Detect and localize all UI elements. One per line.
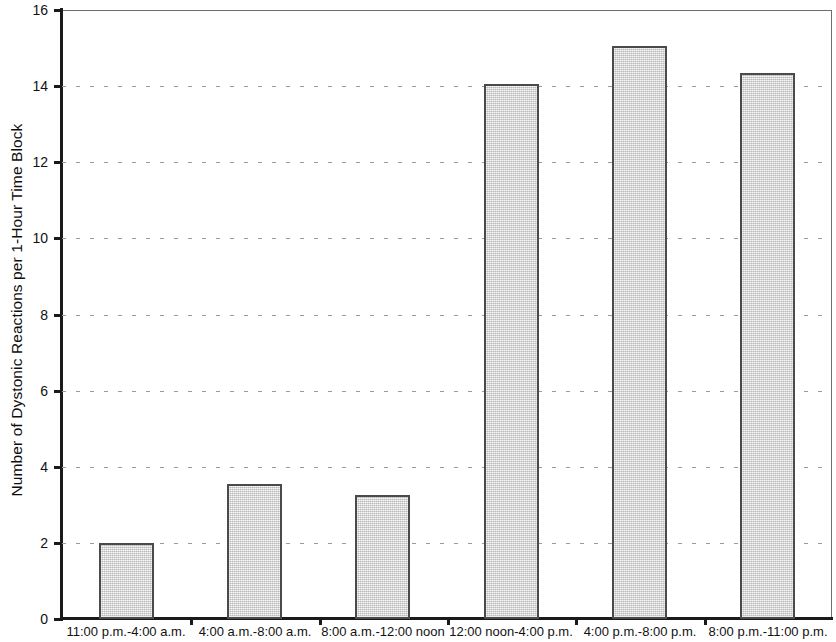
x-axis-tick-label: 4:00 p.m.-8:00 p.m. <box>584 624 697 639</box>
gridline <box>62 238 832 239</box>
bar <box>355 495 410 619</box>
y-axis-title: Number of Dystonic Reactions per 1-Hour … <box>0 0 34 620</box>
y-axis-tick-label: 12 <box>32 154 48 170</box>
gridline <box>62 315 832 316</box>
bar <box>740 73 795 619</box>
x-axis-tick-label: 12:00 noon-4:00 p.m. <box>449 624 573 639</box>
x-axis-tick-label: 4:00 a.m.-8:00 a.m. <box>199 624 312 639</box>
x-axis-tick-label: 8:00 p.m.-11:00 p.m. <box>709 624 828 639</box>
x-axis-tick-label: 8:00 a.m.-12:00 noon <box>321 624 445 639</box>
y-axis-tick <box>54 466 62 469</box>
gridline <box>62 467 832 468</box>
y-axis-tick-label: 6 <box>40 383 48 399</box>
y-axis-tick <box>54 237 62 240</box>
x-axis-tick <box>575 617 578 625</box>
y-axis-tick-label: 4 <box>40 459 48 475</box>
y-axis-tick-label: 16 <box>32 2 48 18</box>
x-axis-tick <box>190 617 193 625</box>
y-axis-tick-label: 10 <box>32 230 48 246</box>
y-axis-tick-label: 8 <box>40 307 48 323</box>
y-axis-tick <box>54 9 62 12</box>
x-axis-tick <box>704 617 707 625</box>
y-axis-tick-label: 2 <box>40 535 48 551</box>
y-axis-title-text: Number of Dystonic Reactions per 1-Hour … <box>8 124 26 497</box>
bar <box>99 543 154 619</box>
bar <box>484 84 539 619</box>
y-axis-tick <box>54 314 62 317</box>
gridline <box>62 543 832 544</box>
y-axis-tick <box>54 542 62 545</box>
bar <box>227 484 282 619</box>
bar <box>612 46 667 619</box>
y-axis-tick-label: 0 <box>40 611 48 627</box>
gridline <box>62 162 832 163</box>
y-axis-tick <box>54 390 62 393</box>
bar-chart: Number of Dystonic Reactions per 1-Hour … <box>0 0 836 642</box>
y-axis-tick <box>54 85 62 88</box>
y-axis-tick-label: 14 <box>32 78 48 94</box>
y-axis-tick <box>54 618 62 621</box>
gridline <box>62 86 832 87</box>
x-axis-tick-label: 11:00 p.m.-4:00 a.m. <box>67 624 186 639</box>
y-axis-tick <box>54 161 62 164</box>
gridline <box>62 391 832 392</box>
